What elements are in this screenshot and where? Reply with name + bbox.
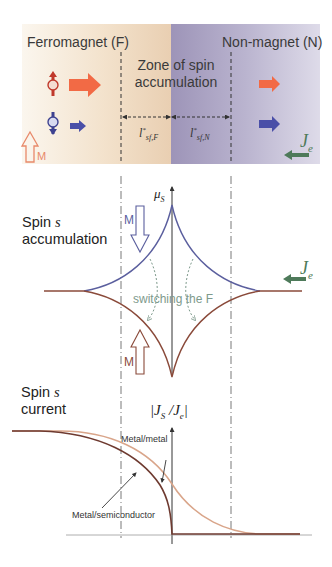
zone-label-line2: accumulation: [133, 74, 219, 91]
magnetization-label-down: M: [124, 213, 134, 227]
nonmagnet-label: Non-magnet (N): [222, 34, 322, 50]
spin-accumulation-title: Spin s accumulation: [22, 214, 107, 248]
switching-label: switching the F: [133, 292, 213, 306]
spin-accumulation-title-line2: accumulation: [22, 231, 107, 248]
length-label-nonmagnet: l*sf,N: [190, 126, 210, 142]
metal-semiconductor-curve: [12, 431, 300, 534]
switching-arrow-left: [148, 259, 157, 320]
zone-label-line1: Zone of spin: [133, 57, 219, 74]
spin-current-title: Spin s current: [21, 384, 66, 418]
metal-semiconductor-pointer: [102, 473, 136, 508]
metal-semiconductor-label: Metal/semiconductor: [72, 510, 155, 520]
length-label-ferromagnet: l*sf,F: [139, 126, 158, 142]
switching-arrow-right: [186, 259, 195, 320]
metal-metal-curve: [12, 431, 300, 534]
magnetization-label-top: M: [37, 150, 46, 162]
current-label-middle: Je: [300, 258, 313, 281]
spin-accumulation-title-line1: Spin s: [22, 214, 107, 231]
magnetization-label-up: M: [124, 355, 134, 369]
mu-s-axis-label: μS: [154, 186, 165, 204]
bottom-panel: [12, 428, 312, 544]
js-je-axis-label: |JS /Je|: [150, 402, 188, 421]
metal-metal-label: Metal/metal: [121, 434, 168, 444]
spin-current-title-line1: Spin s: [21, 384, 66, 401]
current-label-top: Je: [300, 131, 313, 154]
spin-current-title-line2: current: [21, 401, 66, 418]
ferromagnet-label: Ferromagnet (F): [27, 34, 129, 50]
zone-label: Zone of spin accumulation: [133, 57, 219, 91]
